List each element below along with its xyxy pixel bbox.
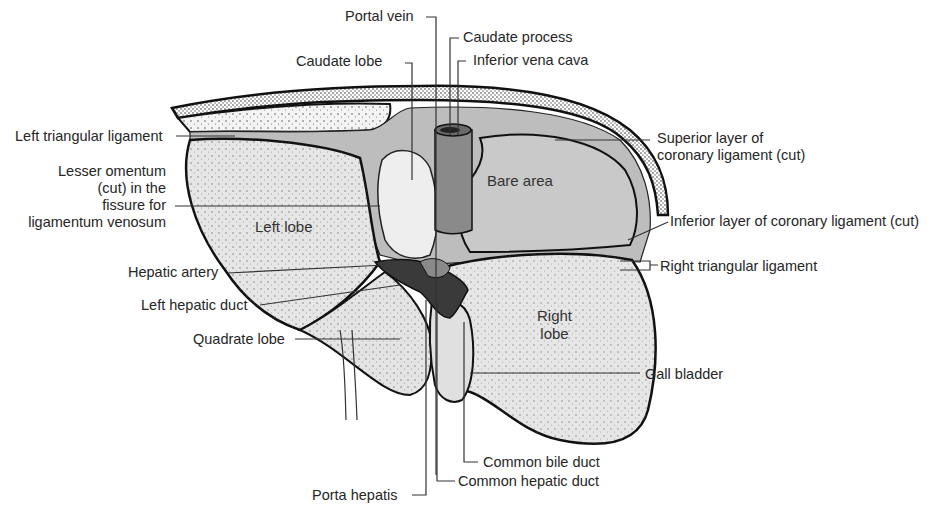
left-lobe-label: Left lobe — [255, 218, 313, 236]
lesser-omentum-line2: (cut) in the — [20, 180, 166, 197]
liver-diagram — [0, 0, 936, 514]
callout-hepatic-artery: Hepatic artery — [128, 264, 218, 281]
callout-superior-coronary-ligament: Superior layer of coronary ligament (cut… — [657, 130, 805, 164]
lesser-omentum-line1: Lesser omentum — [20, 163, 166, 180]
callout-caudate-lobe: Caudate lobe — [296, 53, 382, 70]
right-lobe-label-line1: Right — [537, 307, 572, 325]
callout-inferior-vena-cava: Inferior vena cava — [473, 52, 588, 69]
callout-portal-vein: Portal vein — [345, 8, 414, 25]
callout-right-triangular-ligament: Right triangular ligament — [660, 258, 817, 275]
caudate-lobe — [378, 151, 437, 259]
superior-coronary-line2: coronary ligament (cut) — [657, 147, 805, 164]
inferior-vena-cava-shape — [435, 124, 472, 234]
callout-quadrate-lobe: Quadrate lobe — [193, 331, 285, 348]
callout-gall-bladder: Gall bladder — [645, 366, 723, 383]
bare-area-label: Bare area — [487, 172, 553, 190]
callout-common-hepatic-duct: Common hepatic duct — [458, 473, 599, 490]
lesser-omentum-line4: ligamentum venosum — [20, 214, 166, 231]
callout-left-hepatic-duct: Left hepatic duct — [141, 297, 247, 314]
callout-porta-hepatis: Porta hepatis — [312, 487, 397, 504]
callout-left-triangular-ligament: Left triangular ligament — [15, 128, 163, 145]
callout-caudate-process: Caudate process — [463, 29, 573, 46]
right-lobe-label: Right lobe — [537, 307, 572, 343]
superior-coronary-line1: Superior layer of — [657, 130, 805, 147]
callout-lesser-omentum: Lesser omentum (cut) in the fissure for … — [20, 163, 166, 231]
right-lobe-label-line2: lobe — [537, 325, 572, 343]
lesser-omentum-line3: fissure for — [20, 197, 166, 214]
callout-inferior-coronary-ligament: Inferior layer of coronary ligament (cut… — [670, 213, 919, 230]
callout-common-bile-duct: Common bile duct — [483, 454, 600, 471]
